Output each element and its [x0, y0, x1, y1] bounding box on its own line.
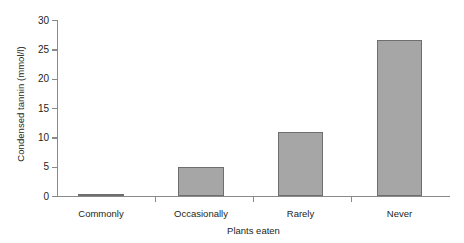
bar-chart-figure: Condensed tannin (mmol/l) 0 5 10 15 20 2…	[0, 0, 464, 243]
x-tick-3	[351, 197, 352, 202]
x-tick-2	[253, 197, 254, 202]
y-axis-title: Condensed tannin (mmol/l)	[14, 6, 28, 202]
y-tick-label-0: 0	[43, 192, 49, 202]
x-axis-title: Plants eaten	[57, 225, 450, 236]
y-tick-label-3: 15	[38, 104, 49, 114]
y-tick-4: 20	[52, 79, 57, 80]
y-tick-3: 15	[52, 108, 57, 109]
y-tick-label-6: 30	[38, 16, 49, 26]
bar-never[interactable]	[377, 40, 422, 196]
bar-commonly[interactable]	[78, 194, 124, 196]
bar-rarely[interactable]	[278, 132, 323, 196]
y-tick-1: 5	[52, 167, 57, 168]
bar-occasionally[interactable]	[178, 167, 224, 196]
plot-area: 0 5 10 15 20 25 30 Commonly Occasional	[57, 20, 450, 196]
y-tick-label-4: 20	[38, 74, 49, 84]
y-tick-6: 30	[52, 20, 57, 21]
y-tick-0: 0	[52, 196, 57, 197]
x-tick-1	[155, 197, 156, 202]
x-category-label-occasionally: Occasionally	[174, 208, 228, 219]
x-category-label-commonly: Commonly	[78, 208, 123, 219]
x-category-label-rarely: Rarely	[287, 208, 314, 219]
x-category-label-never: Never	[387, 208, 412, 219]
y-tick-5: 25	[52, 49, 57, 50]
y-tick-label-5: 25	[38, 45, 49, 55]
y-tick-2: 10	[52, 137, 57, 138]
y-tick-label-1: 5	[43, 162, 49, 172]
y-axis-line	[57, 20, 58, 196]
y-tick-label-2: 10	[38, 133, 49, 143]
